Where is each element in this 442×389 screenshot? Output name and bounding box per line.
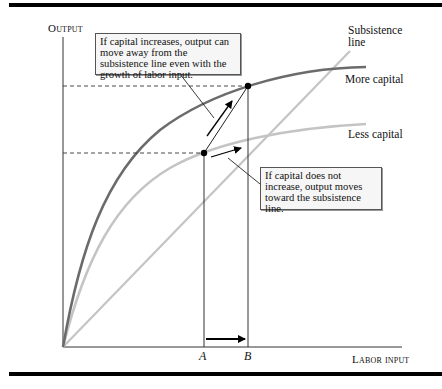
less-capital-curve xyxy=(63,124,366,347)
point-b-label: B xyxy=(244,349,251,364)
top-rule xyxy=(9,3,442,7)
y-axis-label: Output xyxy=(48,22,83,34)
less-capital-label: Less capital xyxy=(348,128,403,140)
point-a-label: A xyxy=(199,349,206,364)
x-axis-label: Labor input xyxy=(352,353,409,365)
arrow-capital-increase xyxy=(207,101,232,136)
callout-capital-increase: If capital increases, output can move aw… xyxy=(95,33,241,75)
callout-capital-constant: If capital does not increase, output mov… xyxy=(260,167,382,210)
point-b xyxy=(245,83,251,89)
callout-leader-top xyxy=(180,74,214,118)
point-a xyxy=(201,150,207,156)
bottom-rule xyxy=(9,372,442,376)
subsistence-line-label: Subsistence line xyxy=(348,24,408,48)
more-capital-label: More capital xyxy=(345,73,403,85)
path-a-to-b xyxy=(204,86,248,153)
